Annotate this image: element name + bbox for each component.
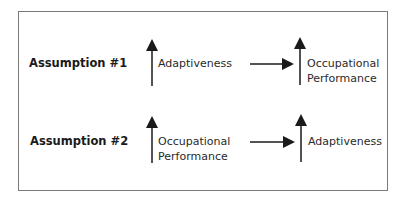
assumption-1-label: Assumption #1 — [29, 56, 127, 70]
row2-to-line1: Adaptiveness — [308, 134, 382, 149]
row1-from-text: Adaptiveness — [158, 56, 232, 71]
row1-to-line1: Occupational — [307, 56, 379, 71]
row2-from-line1: Occupational — [158, 134, 230, 149]
row1-to-text: Occupational Performance — [307, 56, 379, 86]
row2-to-text: Adaptiveness — [308, 134, 382, 149]
assumption-2-label: Assumption #2 — [30, 134, 128, 148]
row2-from-text: Occupational Performance — [158, 134, 230, 164]
row2-from-line2: Performance — [158, 149, 230, 164]
row1-from-line1: Adaptiveness — [158, 56, 232, 71]
arrows-layer — [0, 0, 404, 200]
row1-to-line2: Performance — [307, 71, 379, 86]
